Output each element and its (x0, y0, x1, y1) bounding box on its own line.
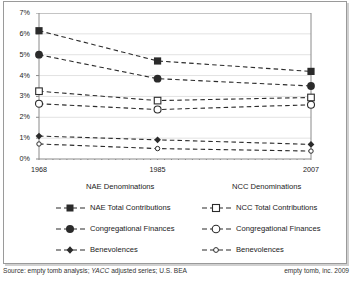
series-line (39, 136, 311, 144)
data-point-open-square (308, 94, 315, 101)
data-point-open-square (36, 88, 43, 95)
data-point-open-circle (308, 101, 315, 108)
legend-item-nae-total-label: NAE Total Contributions (90, 204, 170, 212)
filled-square-icon (56, 202, 86, 214)
legend-group-ncc: NCC Denominations NCC Total Contribution… (202, 183, 320, 261)
series-line (39, 144, 311, 151)
y-tick-label: 5% (20, 51, 30, 58)
series-3 (36, 88, 315, 104)
series-4 (36, 100, 315, 113)
series-line (39, 55, 311, 86)
chart-figure-frame: 0%1%2%3%4%5%6%7% 196819852007 NAE Denomi… (3, 1, 347, 264)
legend-item-nae-benevolences[interactable]: Benevolences (56, 240, 174, 261)
footer-source-suffix: adjusted series; U.S. BEA (109, 267, 187, 274)
data-point-open-square (154, 97, 161, 104)
data-point-filled-circle (154, 75, 162, 83)
filled-diamond-icon (56, 244, 86, 256)
legend-item-nae-congregational-label: Congregational Finances (90, 225, 174, 233)
legend-item-nae-total[interactable]: NAE Total Contributions (56, 198, 174, 219)
data-point-filled-square (154, 57, 161, 64)
legend-group-ncc-title: NCC Denominations (232, 183, 320, 191)
series-2 (36, 133, 315, 148)
data-point-open-small-circle (37, 142, 41, 146)
open-circle-icon (202, 223, 232, 235)
legend-group-nae: NAE Denominations NAE Total Contribution… (56, 183, 174, 261)
legend-item-nae-congregational[interactable]: Congregational Finances (56, 219, 174, 240)
chart-legend: NAE Denominations NAE Total Contribution… (4, 183, 348, 255)
legend-group-nae-title: NAE Denominations (86, 183, 174, 191)
data-point-open-circle (154, 106, 161, 113)
legend-item-ncc-benevolences[interactable]: Benevolences (202, 240, 320, 261)
y-tick-label: 6% (20, 30, 30, 37)
y-tick-label: 2% (20, 114, 30, 121)
open-small-circle-icon (202, 244, 232, 256)
series-1 (35, 51, 315, 90)
data-point-filled-square (307, 68, 314, 75)
series-line (39, 91, 311, 100)
y-tick-label: 0% (20, 155, 30, 162)
legend-item-ncc-benevolences-label: Benevolences (236, 246, 284, 254)
y-tick-label: 3% (20, 93, 30, 100)
data-point-filled-diamond (154, 136, 161, 143)
footer-source-italic: YACC (91, 267, 109, 274)
chart-footer: Source: empty tomb analysis; YACC adjust… (0, 268, 355, 280)
footer-source-prefix: Source: empty tomb analysis; (3, 267, 91, 274)
y-tick-label: 7% (20, 9, 30, 16)
y-tick-label: 1% (20, 135, 30, 142)
open-square-icon (202, 202, 232, 214)
data-point-filled-diamond (308, 141, 315, 148)
plot-area: 0%1%2%3%4%5%6%7% 196819852007 (33, 13, 316, 160)
filled-circle-icon (56, 223, 86, 235)
data-point-filled-square (35, 27, 42, 34)
legend-item-ncc-congregational-label: Congregational Finances (236, 225, 320, 233)
data-point-filled-circle (307, 82, 315, 90)
data-point-open-circle (36, 100, 43, 107)
line-chart-svg (33, 13, 316, 160)
legend-item-ncc-total[interactable]: NCC Total Contributions (202, 198, 320, 219)
data-point-open-small-circle (155, 146, 159, 150)
legend-item-nae-benevolences-label: Benevolences (90, 246, 138, 254)
y-tick-label: 4% (20, 72, 30, 79)
x-tick-label: 1985 (150, 166, 166, 173)
x-tick-label: 2007 (303, 166, 319, 173)
data-point-filled-circle (35, 51, 43, 59)
series-line (39, 104, 311, 110)
footer-credit: empty tomb, inc. 2009 (284, 268, 349, 275)
x-tick-label: 1968 (31, 166, 47, 173)
data-point-open-small-circle (309, 149, 313, 153)
legend-item-ncc-total-label: NCC Total Contributions (236, 204, 317, 212)
footer-source-note: Source: empty tomb analysis; YACC adjust… (3, 268, 187, 275)
legend-item-ncc-congregational[interactable]: Congregational Finances (202, 219, 320, 240)
series-line (39, 31, 311, 72)
